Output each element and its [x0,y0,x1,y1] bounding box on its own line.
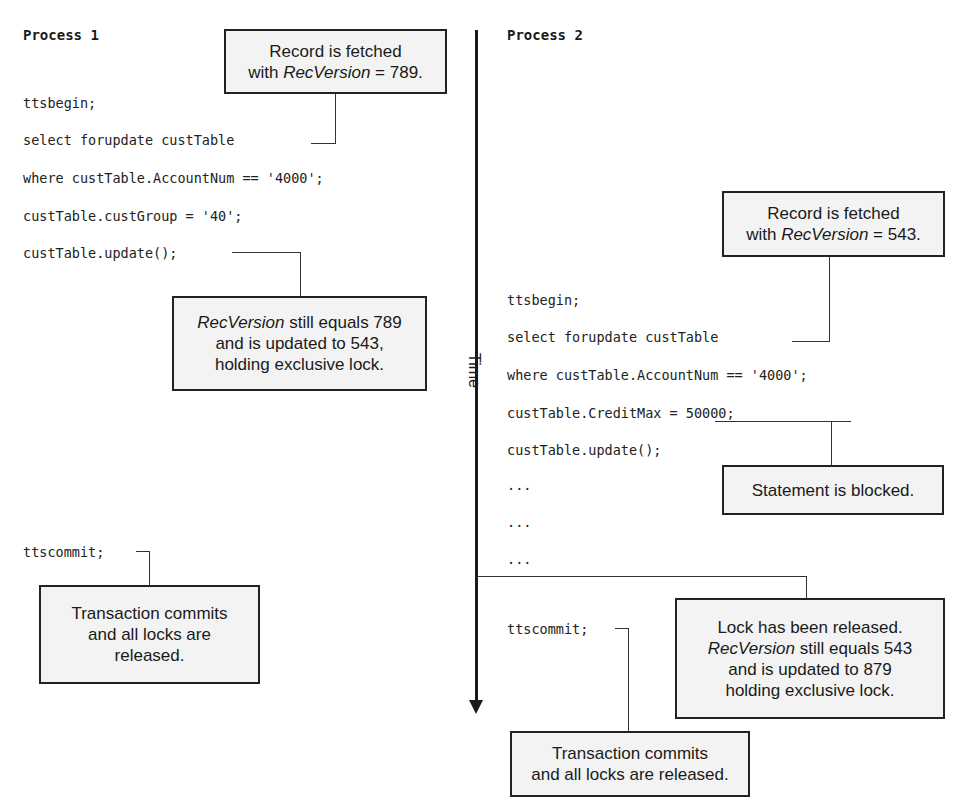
callout-text: holding exclusive lock. [725,680,894,701]
callout-text: and all locks are [88,624,211,645]
connector [149,551,150,585]
callout-text: with RecVersion = 789. [248,62,423,83]
connector [615,628,628,629]
p2-code-ttscommit: ttscommit; [507,620,588,638]
callout-text: RecVersion still equals 543 [708,638,912,659]
connector [311,143,335,144]
callout-text: Record is fetched [767,203,899,224]
p2-code-ellipsis-1: ... [507,476,531,494]
callout-text: Transaction commits [71,603,227,624]
connector [300,252,301,296]
p1-code-select: select forupdate custTable [23,131,234,149]
p2-callout-released: Lock has been released. RecVersion still… [675,598,945,719]
callout-text: Record is fetched [269,41,401,62]
connector [829,257,830,342]
connector [792,341,829,342]
p2-code-update: custTable.update(); [507,441,661,459]
p2-code-assign: custTable.CreditMax = 50000; [507,404,735,422]
p2-code-ellipsis-3: ... [507,550,531,568]
p2-code-where: where custTable.AccountNum == '4000'; [507,366,808,384]
callout-text: and is updated to 543, [215,333,383,354]
callout-text: and all locks are released. [531,764,729,785]
connector [136,551,149,552]
connector [335,94,336,144]
p1-code-update: custTable.update(); [23,244,177,262]
p2-code-select: select forupdate custTable [507,328,718,346]
p1-code-where: where custTable.AccountNum == '4000'; [23,169,324,187]
arrow-down-icon [469,700,483,714]
p2-code-ttsbegin: ttsbegin; [507,291,580,309]
callout-text: Statement is blocked. [752,480,915,501]
p2-callout-fetched: Record is fetched with RecVersion = 543. [722,191,945,257]
callout-text: and is updated to 879 [728,659,892,680]
p2-code-ellipsis-2: ... [507,513,531,531]
p1-code-ttscommit: ttscommit; [23,543,104,561]
callout-text: holding exclusive lock. [215,354,384,375]
p1-callout-updated: RecVersion still equals 789 and is updat… [172,296,427,391]
process-2-heading: Process 2 [507,27,583,43]
callout-text: released. [115,645,185,666]
p1-callout-fetched: Record is fetched with RecVersion = 789. [224,29,447,94]
process-1-heading: Process 1 [23,27,99,43]
time-axis-label: Time [465,353,483,388]
connector [477,576,806,577]
connector [806,576,807,598]
connector [232,252,300,253]
time-axis-label-wrap: Time [463,353,483,393]
callout-text: RecVersion still equals 789 [197,312,401,333]
p1-callout-commit: Transaction commits and all locks are re… [39,585,260,684]
callout-text: Lock has been released. [717,617,902,638]
callout-text: Transaction commits [552,743,708,764]
callout-text: with RecVersion = 543. [746,224,921,245]
p1-code-assign: custTable.custGroup = '40'; [23,207,242,225]
p2-callout-blocked: Statement is blocked. [722,465,944,515]
p1-code-ttsbegin: ttsbegin; [23,94,96,112]
connector [831,421,832,465]
connector [628,628,629,731]
p2-callout-commit: Transaction commits and all locks are re… [510,731,750,797]
